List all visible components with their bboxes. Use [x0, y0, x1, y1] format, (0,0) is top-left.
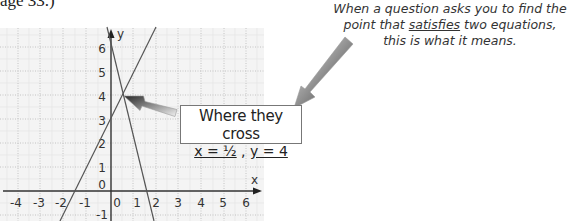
x-tick: -1 — [79, 196, 91, 210]
x-tick: 0 — [113, 196, 121, 210]
note-arrow-icon — [294, 37, 353, 108]
callout-y-value: y = 4 — [250, 143, 288, 159]
x-tick: -3 — [33, 196, 45, 210]
x-axis-label: x — [251, 173, 258, 187]
y-axis-label: y — [117, 27, 124, 41]
callout-separator: , — [237, 143, 250, 159]
y-tick: 5 — [98, 66, 106, 80]
x-tick: -2 — [55, 196, 67, 210]
y-tick: 3 — [98, 114, 106, 128]
x-tick: 6 — [242, 196, 250, 210]
y-tick: 2 — [98, 137, 106, 151]
x-tick: 5 — [219, 196, 227, 210]
x-tick: 3 — [174, 196, 182, 210]
y-tick: 0 — [98, 178, 106, 192]
callout-values: x = ½ , y = 4 — [181, 143, 301, 160]
y-tick: -1 — [96, 208, 108, 221]
y-tick: 1 — [98, 161, 106, 175]
callout-title: Where they cross — [181, 107, 301, 143]
y-tick: 6 — [98, 42, 106, 56]
y-tick: 4 — [98, 90, 106, 104]
callout-x-value: x = ½ — [194, 143, 237, 159]
x-tick: -4 — [10, 196, 22, 210]
intersection-callout-box: Where they cross x = ½ , y = 4 — [180, 105, 302, 144]
x-tick: 1 — [133, 196, 141, 210]
x-tick: 2 — [152, 196, 160, 210]
x-tick: 4 — [197, 196, 205, 210]
